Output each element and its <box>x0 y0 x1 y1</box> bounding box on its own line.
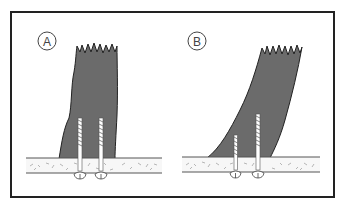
base-a <box>26 158 162 173</box>
post-b <box>207 45 302 158</box>
panel-a: A <box>26 32 162 179</box>
panel-b: B <box>182 32 320 178</box>
label-a: A <box>43 35 51 49</box>
label-a-badge: A <box>38 32 56 50</box>
label-b-badge: B <box>188 32 206 50</box>
label-b: B <box>193 35 201 49</box>
diagram-canvas: A B <box>0 0 344 207</box>
post-a <box>59 43 117 159</box>
base-b <box>182 157 320 172</box>
